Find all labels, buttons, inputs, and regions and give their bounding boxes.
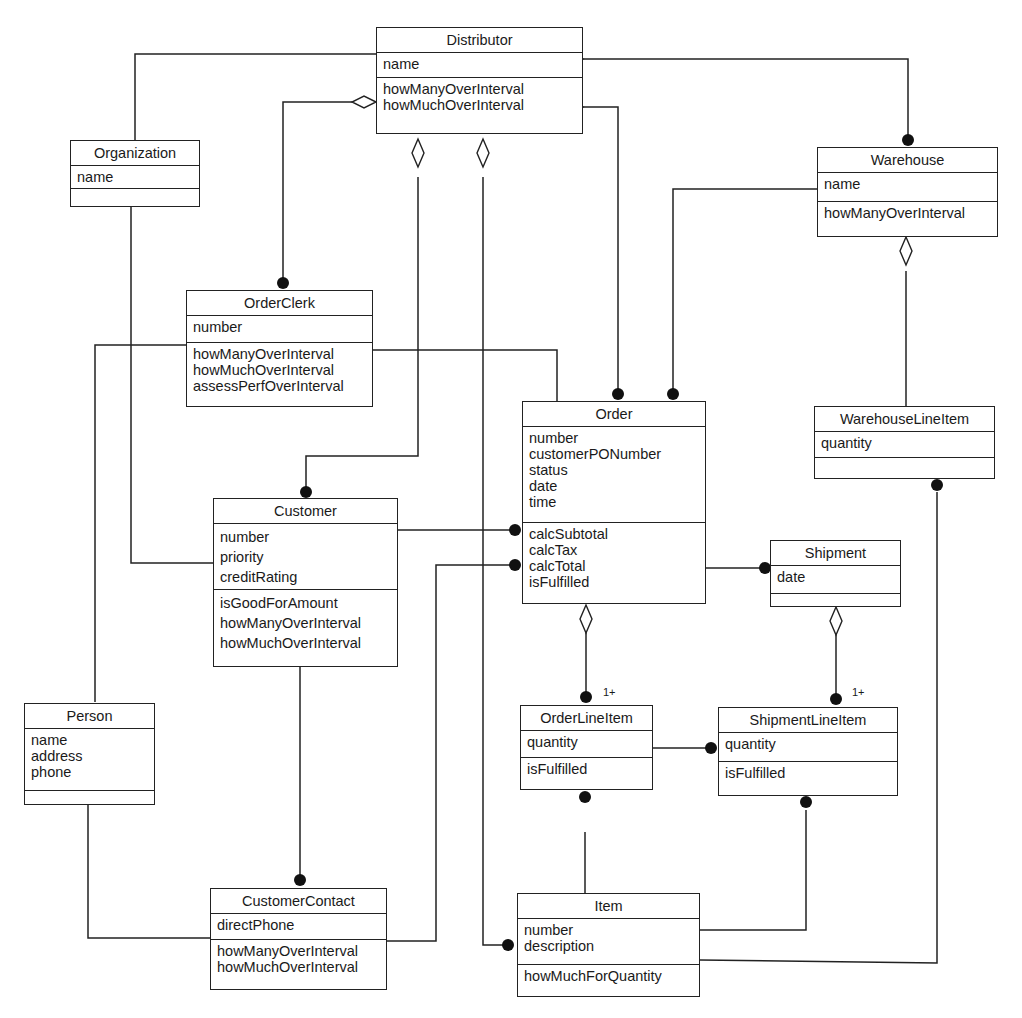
class-name: CustomerContact — [211, 889, 386, 914]
many-dot-icon — [509, 559, 521, 571]
operation: howManyOverInterval — [383, 81, 576, 97]
attributes: quantity — [815, 432, 994, 458]
attribute: date — [777, 569, 894, 585]
attribute: priority — [220, 547, 391, 567]
attributes: name — [71, 166, 199, 189]
many-dot-icon — [830, 693, 842, 705]
aggregation-diamond-icon — [580, 605, 592, 633]
line-distributor-item — [483, 177, 508, 945]
operation: calcTax — [529, 542, 699, 558]
operation: howMuchOverInterval — [220, 633, 391, 653]
class-item: Item number description howMuchForQuanti… — [517, 893, 700, 997]
attributes: quantity — [521, 731, 652, 758]
operations: calcSubtotal calcTax calcTotal isFulfill… — [523, 523, 705, 593]
operation: howManyOverInterval — [824, 205, 991, 221]
operation: assessPerfOverInterval — [193, 378, 366, 394]
operation: howMuchOverInterval — [193, 362, 366, 378]
class-orderlineitem: OrderLineItem quantity isFulfilled — [520, 705, 653, 790]
attributes: number — [187, 316, 372, 343]
aggregation-diamond-icon — [477, 139, 489, 167]
operation: isFulfilled — [725, 765, 891, 781]
many-dot-icon — [300, 486, 312, 498]
line-distributor-warehouse — [583, 59, 908, 140]
attribute: customerPONumber — [529, 446, 699, 462]
class-shipmentlineitem: ShipmentLineItem quantity isFulfilled — [718, 707, 898, 796]
aggregation-diamond-icon — [412, 139, 424, 167]
class-name: Item — [518, 894, 699, 919]
many-dot-icon — [800, 796, 812, 808]
multiplicity-label: 1+ — [603, 686, 616, 698]
class-name: ShipmentLineItem — [719, 708, 897, 733]
many-dot-icon — [277, 277, 289, 289]
attribute: quantity — [725, 736, 891, 752]
class-orderclerk: OrderClerk number howManyOverInterval ho… — [186, 290, 373, 407]
attributes: quantity — [719, 733, 897, 762]
class-shipment: Shipment date — [770, 540, 901, 607]
operation: howManyOverInterval — [217, 943, 380, 959]
attribute: phone — [31, 764, 148, 780]
operations — [815, 458, 994, 474]
many-dot-icon — [580, 691, 592, 703]
many-dot-icon — [579, 791, 591, 803]
operation: howManyOverInterval — [220, 613, 391, 633]
attribute: quantity — [527, 734, 646, 750]
attribute: quantity — [821, 435, 988, 451]
line-warehouse-order — [673, 189, 817, 393]
aggregation-diamond-icon — [900, 237, 912, 265]
operations: howMuchForQuantity — [518, 965, 699, 987]
attributes: name address phone — [25, 729, 154, 791]
attributes: number customerPONumber status date time — [523, 427, 705, 523]
operations: howManyOverInterval howMuchOverInterval — [211, 940, 386, 978]
operation: calcTotal — [529, 558, 699, 574]
many-dot-icon — [294, 874, 306, 886]
line-distributor-organization — [135, 54, 376, 140]
attribute: number — [529, 430, 699, 446]
many-dot-icon — [502, 939, 514, 951]
operation: isFulfilled — [529, 574, 699, 590]
many-dot-icon — [902, 134, 914, 146]
multiplicity-label: 1+ — [852, 686, 865, 698]
class-name: Warehouse — [818, 148, 997, 173]
class-name: Organization — [71, 141, 199, 166]
operation: isFulfilled — [527, 761, 646, 777]
attributes: date — [771, 566, 900, 594]
operations — [771, 594, 900, 610]
many-dot-icon — [509, 524, 521, 536]
class-person: Person name address phone — [24, 703, 155, 805]
class-name: Customer — [214, 499, 397, 524]
attribute: name — [77, 169, 193, 185]
attributes: name — [377, 53, 582, 78]
many-dot-icon — [667, 388, 679, 400]
operation: calcSubtotal — [529, 526, 699, 542]
class-customercontact: CustomerContact directPhone howManyOverI… — [210, 888, 387, 990]
attribute: time — [529, 494, 699, 510]
class-warehouse: Warehouse name howManyOverInterval — [817, 147, 998, 237]
attribute: name — [31, 732, 148, 748]
operations: isGoodForAmount howManyOverInterval howM… — [214, 590, 397, 656]
class-warehouselineitem: WarehouseLineItem quantity — [814, 406, 995, 479]
many-dot-icon — [931, 479, 943, 491]
attribute: name — [383, 56, 576, 72]
class-organization: Organization name — [70, 140, 200, 207]
attribute: creditRating — [220, 567, 391, 587]
attribute: number — [524, 922, 693, 938]
attribute: name — [824, 176, 991, 192]
attribute: address — [31, 748, 148, 764]
operation: isGoodForAmount — [220, 593, 391, 613]
operation: howManyOverInterval — [193, 346, 366, 362]
line-distributor-order — [583, 107, 618, 393]
operations: howManyOverInterval — [818, 202, 997, 224]
line-person-customercontact — [88, 805, 210, 938]
class-name: Order — [523, 402, 705, 427]
operations: howManyOverInterval howMuchOverInterval — [377, 78, 582, 116]
class-customer: Customer number priority creditRating is… — [213, 498, 398, 667]
line-distributor-orderclerk — [283, 102, 352, 283]
operation: howMuchOverInterval — [383, 97, 576, 113]
line-orderclerk-order — [373, 350, 557, 401]
aggregation-diamond-icon — [830, 607, 842, 635]
attribute: status — [529, 462, 699, 478]
attributes: number priority creditRating — [214, 524, 397, 590]
many-dot-icon — [705, 742, 717, 754]
line-shipmentlineitem-item — [700, 810, 806, 930]
attributes: directPhone — [211, 914, 386, 940]
